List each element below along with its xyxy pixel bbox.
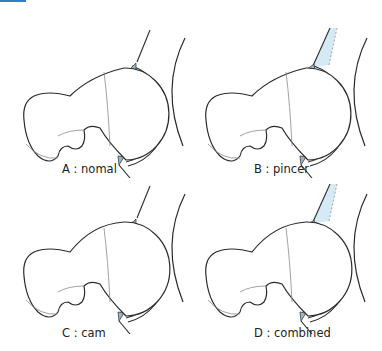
hip-joint-diagram xyxy=(20,184,200,334)
acetabulum-rim-lower xyxy=(119,321,130,334)
caption-c: C : cam xyxy=(62,326,106,340)
panel-pincer xyxy=(202,28,382,178)
femur-outline xyxy=(206,222,352,317)
femur-outline xyxy=(206,68,351,161)
caption-a: A : nomal xyxy=(62,162,117,176)
panel-normal xyxy=(20,28,200,178)
hip-joint-diagram xyxy=(20,28,200,178)
pincer-overgrowth xyxy=(312,28,337,68)
femur-outline xyxy=(24,68,169,161)
pelvis-arc xyxy=(172,38,185,146)
accent-bar xyxy=(0,0,26,2)
pelvis-arc xyxy=(354,194,367,302)
caption-d: D : combined xyxy=(254,326,331,340)
panel-cam xyxy=(20,184,200,334)
acetabulum-rim-upper xyxy=(137,186,150,218)
hip-joint-diagram xyxy=(202,184,382,334)
panel-combined xyxy=(202,184,382,334)
acetabulum-rim-lower xyxy=(119,165,130,178)
femur-outline xyxy=(24,222,170,317)
acetabulum-rim-upper xyxy=(137,30,150,62)
pelvis-arc xyxy=(354,38,367,146)
pelvis-arc xyxy=(172,194,185,302)
hip-joint-diagram xyxy=(202,28,382,178)
caption-b: B : pincer xyxy=(254,162,309,176)
pincer-overgrowth xyxy=(312,184,337,224)
